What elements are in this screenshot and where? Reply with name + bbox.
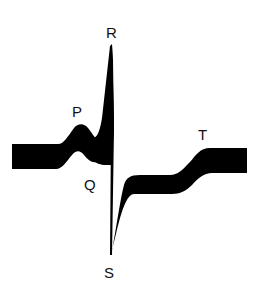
s-wave-st-band — [110, 148, 247, 255]
label-p: P — [72, 103, 82, 120]
label-t: T — [198, 126, 207, 143]
label-s: S — [104, 264, 114, 281]
label-q: Q — [84, 176, 96, 193]
ecg-diagram: R P Q S T — [0, 0, 262, 290]
label-r: R — [106, 24, 117, 41]
p-wave-band — [12, 124, 96, 169]
